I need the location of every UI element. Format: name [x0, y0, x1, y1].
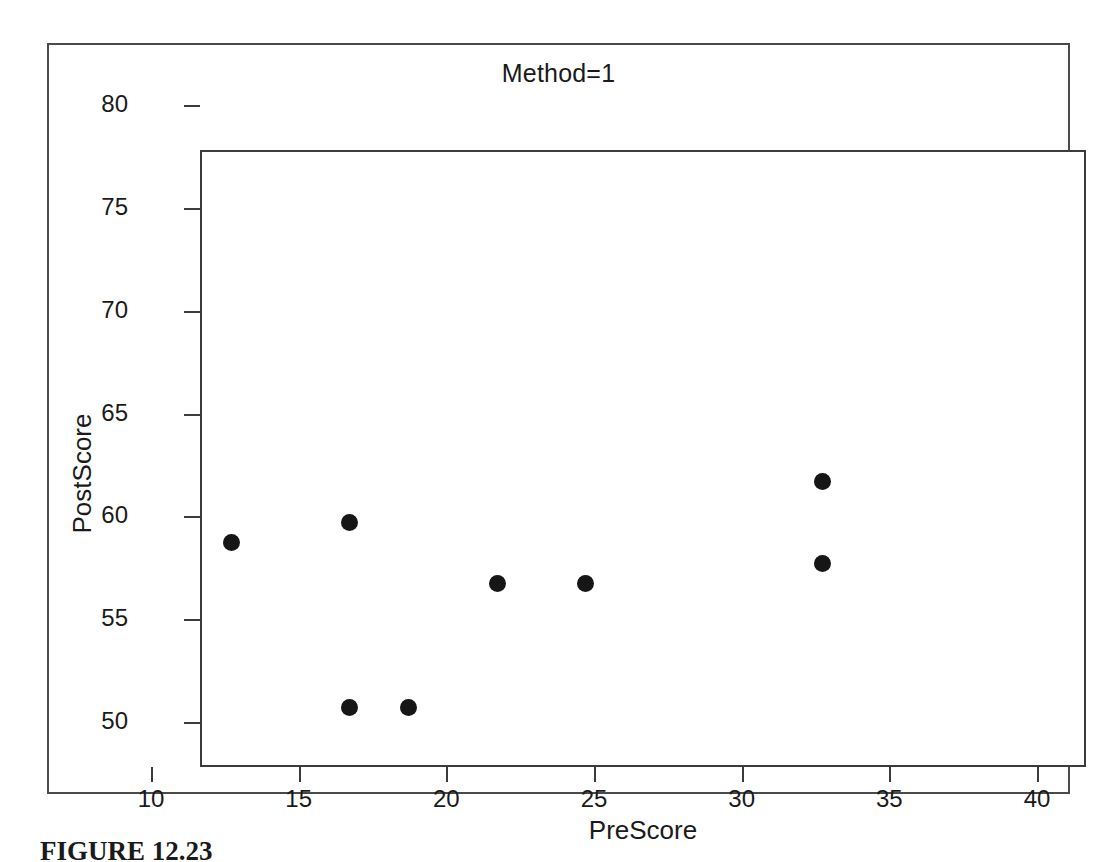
y-axis-tick: [184, 722, 200, 724]
x-axis-tick-label: 25: [554, 785, 634, 813]
data-point: [341, 514, 358, 531]
y-axis-tick: [184, 311, 200, 313]
y-axis-tick: [184, 414, 200, 416]
y-axis-tick-label: 50: [66, 709, 128, 733]
x-axis-tick-label: 35: [849, 785, 929, 813]
data-point: [489, 575, 506, 592]
x-axis-tick-label: 10: [111, 785, 191, 813]
y-axis-tick-label: 70: [66, 298, 128, 322]
x-axis-tick-label: 40: [997, 785, 1077, 813]
y-axis-title: PostScore: [67, 364, 98, 584]
data-point: [223, 534, 240, 551]
data-point: [577, 575, 594, 592]
y-axis-tick-label: 65: [66, 401, 128, 425]
x-axis-tick-label: 15: [259, 785, 339, 813]
y-axis-tick: [184, 105, 200, 107]
chart-title: Method=1: [49, 59, 1068, 88]
x-axis-tick: [299, 767, 301, 782]
y-axis-tick-label: 80: [66, 92, 128, 116]
x-axis-tick: [594, 767, 596, 782]
x-axis-tick: [889, 767, 891, 782]
data-point: [814, 473, 831, 490]
data-point: [814, 555, 831, 572]
x-axis-tick: [446, 767, 448, 782]
data-point: [400, 699, 417, 716]
y-axis-tick: [184, 619, 200, 621]
plot-area: [200, 150, 1086, 767]
x-axis-tick: [151, 767, 153, 782]
y-axis-tick-label: 60: [66, 503, 128, 527]
x-axis-tick-label: 30: [702, 785, 782, 813]
x-axis-title: PreScore: [200, 815, 1086, 846]
data-point: [341, 699, 358, 716]
y-axis-tick: [184, 208, 200, 210]
x-axis-tick: [742, 767, 744, 782]
scatter-series: [202, 152, 1084, 765]
y-axis-tick-label: 55: [66, 606, 128, 630]
y-axis-tick: [184, 516, 200, 518]
x-axis-tick-label: 20: [406, 785, 486, 813]
figure-caption: FIGURE 12.23: [40, 836, 213, 862]
y-axis-tick-label: 75: [66, 195, 128, 219]
figure-frame: Method=1 PostScore PreScore 505560657075…: [47, 43, 1070, 794]
x-axis-tick: [1037, 767, 1039, 782]
